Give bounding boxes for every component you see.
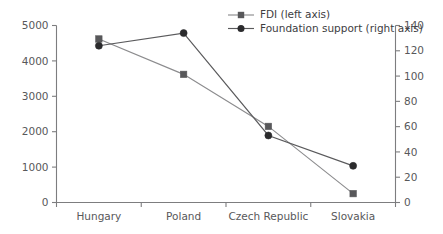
right-axis-tick-label: 120 bbox=[404, 44, 424, 56]
right-axis-tick-label: 0 bbox=[404, 196, 411, 208]
left-axis-tick-label: 2000 bbox=[22, 125, 49, 137]
right-axis-tick-label: 100 bbox=[404, 70, 424, 82]
x-axis-category-label: Slovakia bbox=[331, 210, 375, 222]
data-point-circle-marker bbox=[350, 162, 357, 169]
series-line bbox=[99, 33, 353, 166]
legend-label: FDI (left axis) bbox=[260, 8, 330, 20]
left-axis-tick-label: 3000 bbox=[22, 90, 49, 102]
left-axis-tick-label: 5000 bbox=[22, 19, 49, 31]
data-point-square-marker bbox=[265, 123, 271, 129]
right-axis-tick-label: 20 bbox=[404, 171, 417, 183]
right-axis-tick-label: 40 bbox=[404, 146, 417, 158]
series-fdi bbox=[96, 36, 357, 197]
data-point-square-marker bbox=[350, 190, 356, 196]
legend-item[interactable]: FDI (left axis) bbox=[228, 8, 330, 20]
legend-circle-marker bbox=[238, 25, 245, 32]
chart-legend: FDI (left axis)Foundation support (right… bbox=[228, 8, 423, 34]
right-axis-tick-label: 60 bbox=[404, 120, 417, 132]
data-point-square-marker bbox=[180, 71, 186, 77]
x-axis-category-label: Hungary bbox=[76, 210, 121, 222]
data-point-circle-marker bbox=[265, 132, 272, 139]
legend-square-marker bbox=[238, 12, 244, 18]
x-axis-category-label: Czech Republic bbox=[228, 210, 308, 222]
data-point-square-marker bbox=[96, 36, 102, 42]
legend-label: Foundation support (right axis) bbox=[260, 22, 423, 34]
left-axis-tick-label: 1000 bbox=[22, 161, 49, 173]
series-foundation-support bbox=[95, 30, 356, 170]
data-point-circle-marker bbox=[180, 30, 187, 37]
legend-item[interactable]: Foundation support (right axis) bbox=[228, 22, 423, 34]
series-line bbox=[99, 39, 353, 194]
chart-container: 010002000300040005000020406080100120140H… bbox=[0, 0, 443, 234]
line-chart: 010002000300040005000020406080100120140H… bbox=[0, 0, 443, 234]
chart-axes bbox=[57, 26, 396, 203]
x-axis-category-label: Poland bbox=[166, 210, 201, 222]
left-axis-tick-label: 0 bbox=[42, 196, 49, 208]
left-axis-tick-label: 4000 bbox=[22, 55, 49, 67]
right-axis-tick-label: 80 bbox=[404, 95, 417, 107]
data-point-circle-marker bbox=[95, 42, 102, 49]
